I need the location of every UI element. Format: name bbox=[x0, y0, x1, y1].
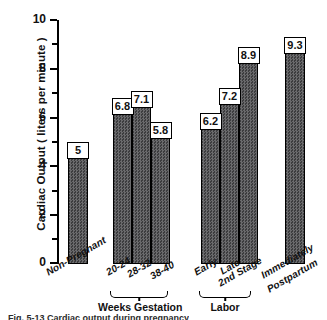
y-tick-label-6: 6 bbox=[0, 111, 46, 123]
bar-group-weeks-38-40: 5.8 bbox=[151, 122, 170, 264]
y-tick-2 bbox=[50, 214, 57, 216]
bar-value-labor-early: 6.2 bbox=[200, 113, 222, 130]
group-label-weeks-gestation: Weeks Gestation bbox=[98, 301, 182, 313]
y-tick-minor-3 bbox=[52, 190, 57, 192]
bar-value-immediately-postpartum: 9.3 bbox=[284, 37, 306, 54]
y-tick-label-8: 8 bbox=[0, 62, 46, 74]
bar-labor-2nd-stage[interactable] bbox=[239, 62, 258, 264]
figure-caption: Fig. 5-13 Cardiac output during pregnanc… bbox=[8, 313, 189, 320]
group-label-labor: Labor bbox=[200, 301, 250, 313]
y-tick-minor-1 bbox=[52, 238, 57, 240]
bar-value-non-pregnant: 5 bbox=[67, 142, 89, 159]
y-tick-minor-5 bbox=[52, 141, 57, 143]
brace-labor bbox=[199, 291, 251, 298]
y-tick-label-0: 0 bbox=[0, 256, 46, 268]
bar-weeks-20-24[interactable] bbox=[113, 113, 132, 264]
cardiac-output-bar-chart: Cardiac Output ( liters per minute ) 10 … bbox=[0, 0, 327, 320]
y-tick-6 bbox=[50, 117, 57, 119]
bar-value-weeks-28-32: 7.1 bbox=[131, 91, 153, 108]
brace-weeks-gestation bbox=[110, 291, 168, 298]
bar-weeks-38-40[interactable] bbox=[151, 137, 170, 264]
bar-value-labor-late: 7.2 bbox=[219, 88, 241, 105]
plot-area: 5 6.8 7.1 5.8 6.2 7.2 8.9 bbox=[59, 20, 321, 264]
bar-labor-early[interactable] bbox=[201, 128, 220, 264]
y-axis-title: Cardiac Output ( liters per minute ) bbox=[35, 9, 47, 259]
y-tick-minor-9 bbox=[52, 43, 57, 45]
bar-group-weeks-20-24: 6.8 bbox=[113, 98, 132, 264]
bar-value-labor-2nd-stage: 8.9 bbox=[238, 47, 260, 64]
bar-immediately-postpartum[interactable] bbox=[285, 52, 305, 264]
y-tick-minor-7 bbox=[52, 92, 57, 94]
y-tick-label-4: 4 bbox=[0, 159, 46, 171]
bar-value-weeks-38-40: 5.8 bbox=[150, 122, 172, 139]
bar-group-labor-early: 6.2 bbox=[201, 113, 220, 264]
bar-labor-late[interactable] bbox=[220, 103, 239, 264]
y-tick-label-10: 10 bbox=[0, 13, 46, 25]
bar-group-labor-2nd-stage: 8.9 bbox=[239, 47, 258, 264]
y-tick-8 bbox=[50, 68, 57, 70]
bar-group-labor-late: 7.2 bbox=[220, 88, 239, 264]
bar-group-immediately-postpartum: 9.3 bbox=[285, 37, 305, 264]
y-tick-10 bbox=[50, 19, 57, 21]
bar-weeks-28-32[interactable] bbox=[132, 106, 151, 264]
bar-group-weeks-28-32: 7.1 bbox=[132, 91, 151, 264]
y-tick-label-2: 2 bbox=[0, 208, 46, 220]
y-tick-4 bbox=[50, 165, 57, 167]
